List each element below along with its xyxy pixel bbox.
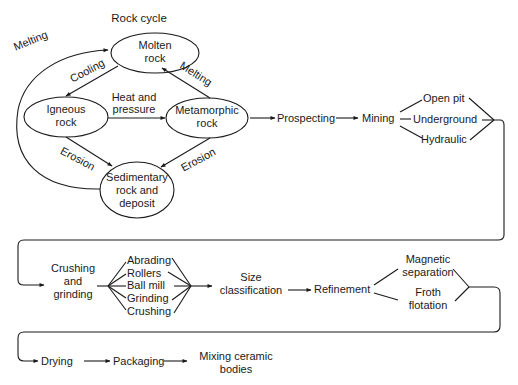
node-sedimentary-rock: Sedimentary rock and deposit xyxy=(100,162,174,218)
branch-magnetic-out xyxy=(453,269,469,287)
step-drying: Drying xyxy=(41,355,73,367)
refinement-magnetic-separation: Magnetic separation xyxy=(402,253,453,278)
svg-text:Sedimentary: Sedimentary xyxy=(106,171,168,183)
fan-out-crushing xyxy=(174,286,191,313)
step-size-classification: Size classification xyxy=(220,271,282,296)
svg-text:Molten: Molten xyxy=(138,39,171,51)
method-rollers: Rollers xyxy=(127,267,162,279)
label-erosion-left: Erosion xyxy=(59,144,98,172)
step-mixing-ceramic-bodies: Mixing ceramic bodies xyxy=(199,350,273,375)
label-heat-and: Heat and xyxy=(112,91,157,103)
fan-in-abrading xyxy=(108,262,126,286)
branch-open-pit-in xyxy=(400,100,422,112)
svg-text:classification: classification xyxy=(220,284,282,296)
method-abrading: Abrading xyxy=(127,254,171,266)
fan-out-abrading xyxy=(172,258,191,286)
svg-text:Size: Size xyxy=(240,271,261,283)
label-melting-left: Melting xyxy=(12,28,49,52)
svg-text:separation: separation xyxy=(402,266,453,278)
svg-text:deposit: deposit xyxy=(119,197,154,209)
method-crushing: Crushing xyxy=(127,305,171,317)
svg-text:rock: rock xyxy=(56,116,77,128)
step-crushing-and-grinding: Crushing and grinding xyxy=(51,262,95,300)
step-packaging: Packaging xyxy=(113,355,164,367)
branch-froth-out xyxy=(455,287,469,301)
label-erosion-right: Erosion xyxy=(179,145,218,173)
step-mining: Mining xyxy=(362,112,394,124)
svg-text:and: and xyxy=(64,275,82,287)
svg-text:Metamorphic: Metamorphic xyxy=(175,104,239,116)
fan-out-rollers xyxy=(168,272,191,286)
branch-hydraulic-in xyxy=(400,126,422,138)
label-pressure: pressure xyxy=(113,103,156,115)
branch-magnetic-in xyxy=(374,269,398,285)
svg-text:Igneous: Igneous xyxy=(46,103,86,115)
method-grinding: Grinding xyxy=(127,292,169,304)
fan-in-crushing xyxy=(108,286,126,310)
svg-text:Magnetic: Magnetic xyxy=(406,253,451,265)
svg-text:Froth: Froth xyxy=(415,286,441,298)
fan-in-grinding xyxy=(108,286,126,298)
svg-text:rock: rock xyxy=(145,52,166,64)
node-metamorphic-rock: Metamorphic rock xyxy=(166,98,248,138)
ceramic-raw-materials-flow-diagram: Rock cycle Molten rock Igneous rock Meta… xyxy=(0,0,518,385)
svg-text:flotation: flotation xyxy=(409,299,448,311)
step-prospecting: Prospecting xyxy=(277,112,335,124)
svg-text:rock and: rock and xyxy=(116,184,158,196)
fan-in-rollers xyxy=(108,274,126,286)
step-refinement: Refinement xyxy=(314,283,370,295)
label-melting-right: Melting xyxy=(178,59,214,88)
svg-text:grinding: grinding xyxy=(53,288,92,300)
label-cooling: Cooling xyxy=(68,56,107,84)
rock-cycle-title: Rock cycle xyxy=(111,12,167,24)
svg-text:rock: rock xyxy=(197,117,218,129)
node-igneous-rock: Igneous rock xyxy=(24,97,108,137)
fan-out-grinding xyxy=(172,286,191,300)
mining-method-hydraulic: Hydraulic xyxy=(421,133,467,145)
method-ball-mill: Ball mill xyxy=(127,279,165,291)
refinement-froth-flotation: Froth flotation xyxy=(409,286,448,311)
mining-method-underground: Underground xyxy=(413,113,477,125)
svg-text:Mixing ceramic: Mixing ceramic xyxy=(199,350,273,362)
svg-text:Crushing: Crushing xyxy=(51,262,95,274)
svg-text:bodies: bodies xyxy=(220,363,253,375)
branch-froth-in xyxy=(374,293,398,300)
mining-method-open-pit: Open pit xyxy=(423,92,465,104)
